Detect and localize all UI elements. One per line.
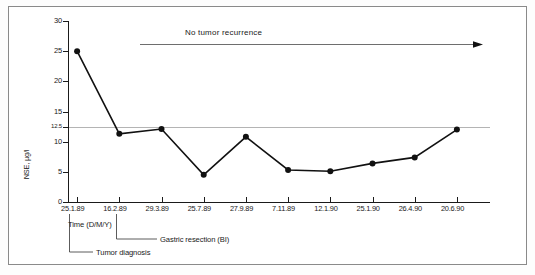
x-axis-tick: [246, 197, 247, 202]
y-axis-tick-label: 25: [36, 47, 62, 55]
x-axis-tick: [415, 197, 416, 202]
reference-line-12-5: [68, 127, 490, 128]
y-axis-tick: [63, 127, 68, 128]
y-axis-tick: [63, 81, 68, 82]
x-axis-tick-label: 25.1.90: [357, 205, 380, 213]
y-axis-tick-label: 30: [36, 17, 62, 25]
y-axis-tick-label: 5: [36, 168, 62, 176]
x-axis-tick: [204, 197, 205, 202]
tumor-diagnosis-label: Tumor diagnosis: [96, 248, 150, 257]
x-axis-tick: [77, 197, 78, 202]
x-axis-tick: [119, 197, 120, 202]
y-axis-tick: [63, 142, 68, 143]
y-axis-tick-label: 12.5: [36, 123, 62, 129]
time-axis-caption: Time (D/M/Y): [68, 220, 112, 229]
x-axis-tick-label: 26.4.90: [399, 205, 422, 213]
x-axis-tick-label: 16.2.89: [103, 205, 126, 213]
y-axis-title: NSE, µg/l: [22, 135, 31, 195]
x-axis-tick: [330, 197, 331, 202]
x-axis-tick-label: 25.7.89: [188, 205, 211, 213]
y-axis-tick-label: 10: [36, 138, 62, 146]
x-axis-line: [68, 202, 490, 203]
x-axis-tick: [457, 197, 458, 202]
y-axis-tick: [63, 112, 68, 113]
y-axis-tick: [63, 21, 68, 22]
no-tumor-recurrence-label: No tumor recurrence: [185, 28, 262, 37]
y-axis-tick-label: 0: [36, 198, 62, 206]
x-axis-tick-label: 20.6.90: [441, 205, 464, 213]
x-axis-tick: [373, 197, 374, 202]
x-axis-tick: [288, 197, 289, 202]
x-axis-tick-label: 25.1.89: [61, 205, 84, 213]
x-axis-tick-label: 7.11.89: [272, 205, 295, 213]
y-axis-tick: [63, 172, 68, 173]
y-axis-tick: [63, 202, 68, 203]
y-axis-tick: [63, 51, 68, 52]
x-axis-tick-label: 12.1.90: [314, 205, 337, 213]
y-axis-tick-label: 20: [36, 77, 62, 85]
x-axis-tick-label: 29.3.89: [146, 205, 169, 213]
y-axis-line: [68, 21, 69, 203]
figure-canvas: NSE, µg/l 3025201512.51050 25.1.8916.2.8…: [0, 0, 535, 275]
x-axis-tick: [162, 197, 163, 202]
no-tumor-recurrence-arrow: [140, 41, 483, 48]
gastric-resection-label: Gastric resection (BI): [160, 235, 229, 244]
y-axis-tick-label: 15: [36, 108, 62, 116]
x-axis-tick-label: 27.9.89: [230, 205, 253, 213]
